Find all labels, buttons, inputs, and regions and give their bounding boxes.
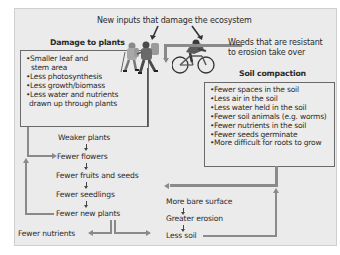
newplants-loop-v — [25, 162, 27, 215]
down-arrow-icon — [86, 182, 87, 186]
soil-chain-1: Greater erosion — [166, 214, 223, 223]
soil-chain-2: Less soil — [166, 231, 197, 240]
split-left-h — [93, 232, 112, 234]
plant-chain-4: Fewer new plants — [56, 209, 120, 218]
compaction-left — [170, 184, 278, 187]
lesssoil-right — [203, 235, 277, 237]
lesssoil-up — [275, 192, 277, 237]
plant-chain-3: Fewer seedlings — [56, 190, 115, 199]
weeds-arrowhead-icon — [163, 58, 169, 63]
down-arrow-icon — [183, 225, 184, 229]
damage-to-flowers-h — [27, 155, 52, 157]
damage-box-bottom — [20, 126, 148, 127]
diagram-title: New inputs that damage the ecosystem — [97, 16, 252, 25]
weeds-line1: Weeds that are resistant — [228, 38, 323, 47]
arrowhead-up-icon — [23, 158, 29, 163]
plant-chain-1: Fewer flowers — [57, 152, 107, 161]
down-arrow-icon — [183, 208, 184, 212]
soil-chain-0: More bare surface — [166, 197, 232, 206]
arrowhead-right-icon — [52, 153, 57, 159]
soil-compaction-box: •Fewer spaces in the soil •Less air in t… — [204, 82, 335, 167]
arrowhead-left-icon — [88, 230, 93, 236]
hikers-connector — [147, 68, 148, 127]
plant-chain-2: Fewer fruits and seeds — [56, 171, 139, 180]
damage-item: drawn up through plants — [26, 100, 148, 109]
arrowhead-left-icon — [164, 183, 169, 189]
plant-chain-0: Weaker plants — [58, 133, 110, 142]
arrowhead-right-icon — [146, 230, 151, 236]
weeds-drop-v — [164, 44, 167, 58]
weeds-line2: to erosion take over — [228, 48, 305, 57]
soil-item: •More difficult for roots to grow — [210, 139, 334, 148]
down-arrow-icon — [86, 144, 87, 148]
damage-to-plants-heading: Damage to plants — [50, 38, 125, 47]
down-arrow-icon — [86, 163, 87, 167]
compaction-drop — [275, 166, 278, 186]
down-arrow-icon — [86, 201, 87, 205]
damage-to-flowers-v — [27, 127, 29, 156]
split-right-h — [114, 232, 146, 234]
newplants-loop-h — [25, 213, 54, 215]
soil-compaction-heading: Soil compaction — [239, 69, 306, 78]
fewer-nutrients: Fewer nutrients — [18, 229, 75, 238]
hikers-icon — [118, 38, 163, 80]
arrowhead-up-icon — [273, 188, 279, 193]
